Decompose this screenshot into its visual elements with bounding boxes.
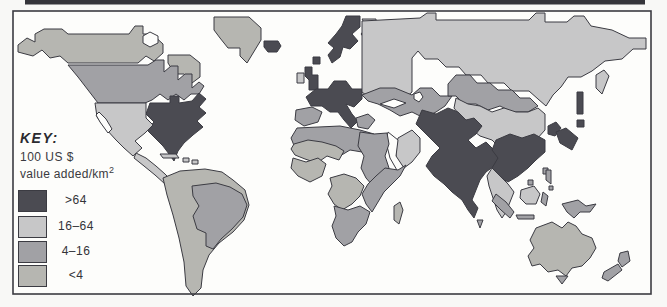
region-java [516,215,534,219]
region-philippines [549,186,553,190]
region-caribbean-island [192,160,198,164]
region-japan [577,92,583,114]
region-japan [577,120,584,127]
world-map [0,0,667,307]
region-hainan [528,180,533,185]
page-top-rule [25,0,645,5]
figure-page: KEY: 100 US $ value added/km2 >64 16–64 … [0,0,667,307]
region-iceland [264,41,281,52]
region-scotland [313,57,320,64]
region-caribbean-island [183,158,189,162]
region-ireland [297,73,304,83]
region-cuba [160,154,179,158]
